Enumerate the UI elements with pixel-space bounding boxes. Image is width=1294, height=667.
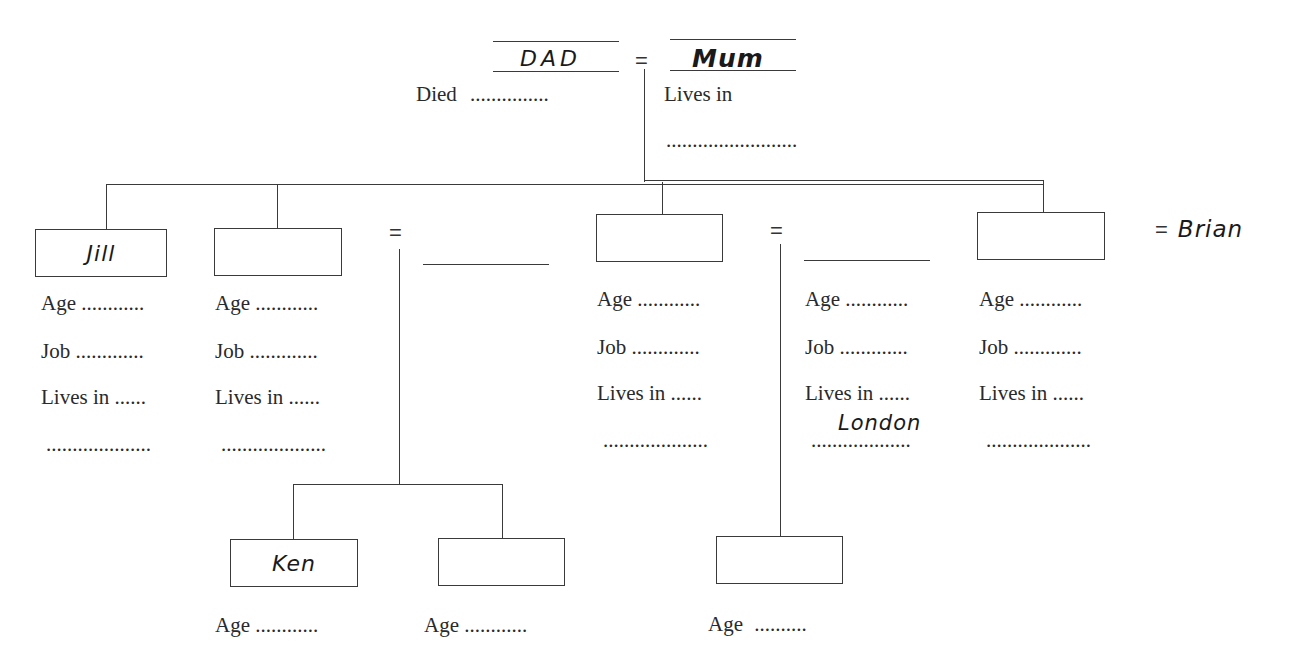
job-value[interactable]: ............. bbox=[75, 339, 143, 363]
grandchild-box-3[interactable] bbox=[716, 536, 843, 584]
child3-lives[interactable]: Lives in ...... bbox=[597, 383, 702, 404]
child4-job[interactable]: Job ............. bbox=[979, 337, 1082, 358]
age-value[interactable]: .......... bbox=[754, 612, 807, 636]
lives-label: Lives in bbox=[979, 381, 1047, 405]
parents-descent-line bbox=[644, 69, 645, 182]
child3-lives-extra[interactable]: .................... bbox=[603, 430, 708, 451]
lives-label: Lives in bbox=[597, 381, 665, 405]
child-name-jill: Jill bbox=[87, 241, 116, 266]
child4-age[interactable]: Age ............ bbox=[979, 289, 1082, 310]
spouse2-descent-line bbox=[780, 244, 781, 538]
spouse2-lives[interactable]: Lives in ...... bbox=[805, 383, 910, 404]
spouse1-equals-sign: = bbox=[389, 222, 402, 244]
lives-value[interactable]: ...... bbox=[671, 381, 703, 405]
age-label: Age bbox=[215, 291, 250, 315]
child4-drop bbox=[1043, 180, 1044, 213]
child-box-3[interactable] bbox=[596, 214, 723, 262]
child3-job[interactable]: Job ............. bbox=[597, 337, 700, 358]
lives-label: Lives in bbox=[215, 385, 283, 409]
father-name[interactable]: DAD bbox=[520, 46, 581, 71]
child-box-4[interactable] bbox=[977, 212, 1105, 260]
spouse3-label[interactable]: = Brian bbox=[1155, 216, 1243, 242]
mother-name-bottom-line bbox=[670, 70, 796, 71]
child-box-jill[interactable]: Jill bbox=[35, 229, 167, 277]
lives-value[interactable]: ...... bbox=[115, 385, 147, 409]
job-label: Job bbox=[805, 335, 834, 359]
job-value[interactable]: ............. bbox=[631, 335, 699, 359]
spouse3-equals-sign: = bbox=[1155, 217, 1168, 242]
grandchild1-age[interactable]: Age ............ bbox=[215, 615, 318, 636]
father-name-top-line bbox=[493, 41, 619, 42]
mother-name-top-line bbox=[670, 39, 796, 40]
child1-job[interactable]: Job ............. bbox=[41, 341, 144, 362]
age-label: Age bbox=[41, 291, 76, 315]
job-value[interactable]: ............. bbox=[839, 335, 907, 359]
job-label: Job bbox=[597, 335, 626, 359]
lives-value[interactable]: ...... bbox=[1053, 381, 1085, 405]
child2-drop bbox=[277, 184, 278, 229]
father-name-bottom-line bbox=[493, 71, 619, 72]
spouse2-age[interactable]: Age ............ bbox=[805, 289, 908, 310]
age-label: Age bbox=[708, 612, 743, 636]
grandchild-name-ken: Ken bbox=[272, 551, 316, 576]
child2-age[interactable]: Age ............ bbox=[215, 293, 318, 314]
lives-value[interactable]: ...... bbox=[879, 381, 911, 405]
grandchild2-age[interactable]: Age ............ bbox=[424, 615, 527, 636]
mother-lives-in-label: Lives in bbox=[664, 84, 732, 105]
spouse2-equals-sign: = bbox=[770, 220, 783, 242]
parents-equals-sign: = bbox=[635, 50, 648, 72]
child2-lives-extra[interactable]: .................... bbox=[221, 434, 326, 455]
job-label: Job bbox=[979, 335, 1008, 359]
father-died-field[interactable]: Died ............... bbox=[416, 84, 549, 105]
spouse3-name: Brian bbox=[1178, 216, 1243, 242]
children-sibling-line bbox=[106, 184, 1044, 185]
age-value[interactable]: ............ bbox=[1019, 287, 1082, 311]
age-value[interactable]: ............ bbox=[845, 287, 908, 311]
grandchildren-sibling-line bbox=[293, 484, 503, 485]
child3-drop bbox=[662, 182, 663, 215]
child1-lives[interactable]: Lives in ...... bbox=[41, 387, 146, 408]
mother-lives-in-value[interactable]: ......................... bbox=[666, 130, 797, 151]
child4-lives-extra[interactable]: .................... bbox=[986, 430, 1091, 451]
job-value[interactable]: ............. bbox=[249, 339, 317, 363]
child2-lives[interactable]: Lives in ...... bbox=[215, 387, 320, 408]
age-value[interactable]: ............ bbox=[81, 291, 144, 315]
grandchild1-drop bbox=[293, 484, 294, 540]
spouse2-name-line[interactable] bbox=[804, 260, 930, 261]
grandchild2-drop bbox=[502, 484, 503, 539]
child1-age[interactable]: Age ............ bbox=[41, 293, 144, 314]
job-value[interactable]: ............. bbox=[1013, 335, 1081, 359]
lives-label: Lives in bbox=[41, 385, 109, 409]
father-died-label: Died bbox=[416, 82, 457, 106]
grandchild-box-2[interactable] bbox=[438, 538, 565, 586]
age-label: Age bbox=[215, 613, 250, 637]
child2-job[interactable]: Job ............. bbox=[215, 341, 318, 362]
age-label: Age bbox=[805, 287, 840, 311]
child4-lives[interactable]: Lives in ...... bbox=[979, 383, 1084, 404]
child1-drop bbox=[106, 184, 107, 230]
age-value[interactable]: ............ bbox=[255, 291, 318, 315]
spouse2-job[interactable]: Job ............. bbox=[805, 337, 908, 358]
job-label: Job bbox=[215, 339, 244, 363]
child-box-2[interactable] bbox=[214, 228, 342, 276]
age-value[interactable]: ............ bbox=[464, 613, 527, 637]
child1-lives-extra[interactable]: .................... bbox=[46, 434, 151, 455]
age-label: Age bbox=[979, 287, 1014, 311]
spouse1-descent-line bbox=[399, 249, 400, 485]
child3-age[interactable]: Age ............ bbox=[597, 289, 700, 310]
lives-value[interactable]: ...... bbox=[289, 385, 321, 409]
lives-label: Lives in bbox=[805, 381, 873, 405]
spouse2-lives-extra[interactable]: ................... bbox=[811, 430, 911, 451]
job-label: Job bbox=[41, 339, 70, 363]
age-label: Age bbox=[424, 613, 459, 637]
mother-name[interactable]: Mum bbox=[692, 44, 764, 73]
spouse1-name-line[interactable] bbox=[423, 264, 549, 265]
father-died-value[interactable]: ............... bbox=[470, 82, 549, 106]
children-sibling-line-right bbox=[644, 180, 1044, 181]
grandchild-box-ken[interactable]: Ken bbox=[230, 539, 358, 587]
age-value[interactable]: ............ bbox=[637, 287, 700, 311]
grandchild3-age[interactable]: Age .......... bbox=[708, 614, 807, 635]
age-value[interactable]: ............ bbox=[255, 613, 318, 637]
age-label: Age bbox=[597, 287, 632, 311]
